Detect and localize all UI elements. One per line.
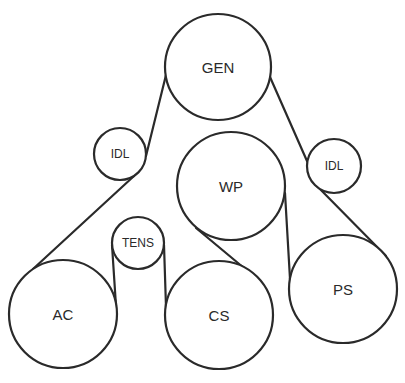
pulley-label: WP [219,178,243,195]
pulley-tens: TENS [112,217,164,269]
pulley-label: PS [333,281,353,298]
pulley-label: GEN [202,59,235,76]
belt-segment [270,77,307,161]
pulley-gen: GEN [165,14,271,120]
pulley-idl-left: IDL [94,128,146,180]
pulley-label: IDL [325,159,344,173]
pulley-label: CS [209,307,230,324]
belt-segment [146,75,166,156]
pulley-ps: PS [289,235,397,343]
belt-segment [285,193,290,279]
pulley-label: AC [53,306,74,323]
pulley-wp: WP [177,132,285,240]
pulleys: GENIDLWPIDLTENSACCSPS [9,14,397,369]
pulley-cs: CS [165,261,273,369]
belt-segment [164,245,166,307]
pulley-idl-right: IDL [307,139,361,193]
pulley-ac: AC [9,260,117,368]
pulley-label: TENS [122,236,154,250]
pulley-label: IDL [111,147,130,161]
belt-routing-diagram: GENIDLWPIDLTENSACCSPS [0,0,405,383]
